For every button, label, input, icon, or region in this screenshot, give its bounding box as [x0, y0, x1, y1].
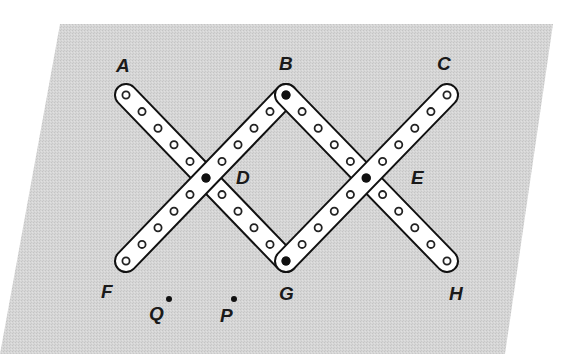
linkage-diagram: ABCDEFGHQP [0, 0, 570, 361]
hole-icon [138, 108, 145, 115]
hole-icon [266, 108, 273, 115]
diagram-canvas: ABCDEFGHQP [0, 0, 570, 361]
pivot-b [282, 91, 291, 100]
label-a: A [115, 55, 130, 76]
hole-icon [331, 141, 338, 148]
hole-icon [138, 241, 145, 248]
hole-icon [170, 141, 177, 148]
hole-icon [234, 208, 241, 215]
hole-icon [154, 125, 161, 132]
hole-icon [411, 125, 418, 132]
hole-icon [218, 158, 225, 165]
point-p [231, 296, 237, 302]
pivot-e [362, 174, 371, 183]
hole-icon [395, 141, 402, 148]
hole-icon [250, 224, 257, 231]
label-c: C [437, 53, 451, 74]
hole-icon [266, 241, 273, 248]
label-f: F [101, 281, 114, 302]
hole-icon [331, 208, 338, 215]
hole-icon [443, 257, 450, 264]
hole-icon [395, 208, 402, 215]
hole-icon [170, 208, 177, 215]
hole-icon [315, 224, 322, 231]
shaded-plane [0, 24, 553, 354]
hole-icon [122, 257, 129, 264]
label-b: B [279, 53, 293, 74]
hole-icon [427, 241, 434, 248]
label-q: Q [149, 303, 164, 324]
hole-icon [443, 91, 450, 98]
hole-icon [379, 158, 386, 165]
label-h: H [449, 283, 464, 304]
pivot-d [202, 174, 211, 183]
label-g: G [279, 283, 294, 304]
label-p: P [220, 305, 233, 326]
hole-icon [250, 125, 257, 132]
hole-icon [218, 191, 225, 198]
label-e: E [411, 167, 425, 188]
hole-icon [299, 108, 306, 115]
hole-icon [154, 224, 161, 231]
label-d: D [236, 167, 250, 188]
hole-icon [347, 158, 354, 165]
hole-icon [299, 241, 306, 248]
pivot-g [282, 257, 291, 266]
hole-icon [411, 224, 418, 231]
hole-icon [122, 91, 129, 98]
point-q [166, 296, 172, 302]
hole-icon [186, 191, 193, 198]
hole-icon [347, 191, 354, 198]
hole-icon [379, 191, 386, 198]
hole-icon [427, 108, 434, 115]
hole-icon [315, 125, 322, 132]
hole-icon [234, 141, 241, 148]
hole-icon [186, 158, 193, 165]
